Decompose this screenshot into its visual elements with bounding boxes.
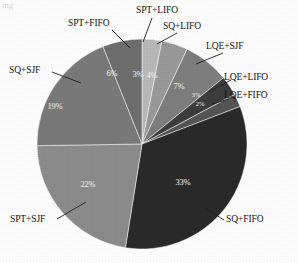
slice-percent-label: 33% (176, 177, 191, 187)
slice-callout-label: LQE+LIFO (224, 73, 268, 83)
slice-percent-label: 22% (81, 179, 96, 189)
slice-callout-label: LQE+FIFO (224, 91, 268, 101)
pie-chart-figure: ing 3%4%7%3%2%33%22%19%6% SPT+LIFOSQ+LIF… (0, 0, 298, 263)
slice-callout-label: SPT+FIFO (68, 19, 110, 29)
slice-percent-label: 4% (147, 70, 158, 80)
slice-percent-label: 6% (107, 68, 118, 78)
slice-percent-label: 2% (196, 100, 205, 107)
slice-callout-label: SQ+SJF (9, 66, 40, 76)
slice-percent-label: 3% (133, 69, 144, 79)
slice-callout-label: LQE+SJF (206, 42, 243, 52)
slice-percent-label: 3% (192, 91, 201, 98)
pie-slice[interactable] (37, 144, 142, 248)
slice-percent-label: 19% (48, 101, 63, 111)
leader-line (143, 18, 152, 42)
slice-callout-label: SPT+LIFO (136, 6, 178, 16)
slice-callout-label: SQ+FIFO (226, 215, 263, 225)
slice-percent-label: 7% (174, 81, 185, 91)
slice-callout-label: SPT+SJF (10, 215, 45, 225)
slice-callout-label: SQ+LIFO (163, 22, 201, 32)
